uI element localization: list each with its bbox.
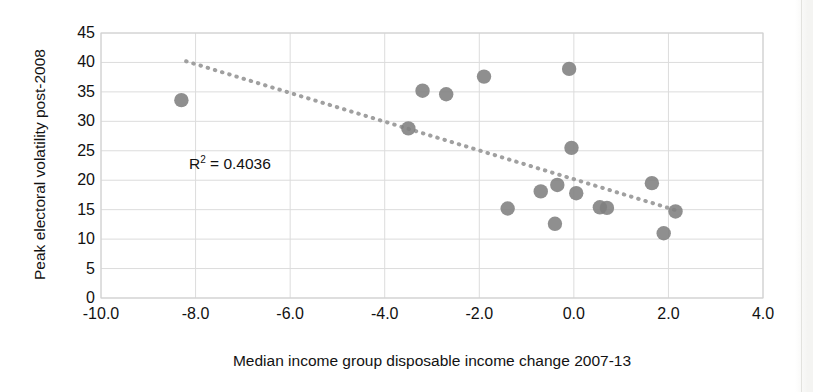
scatter-chart-figure: Peak electoral volatility post-2008 0510… xyxy=(0,0,813,392)
x-axis-title: Median income group disposable income ch… xyxy=(101,352,763,370)
x-axis-tick-label: 2.0 xyxy=(628,305,708,323)
data-point xyxy=(415,84,429,98)
data-point xyxy=(564,141,578,155)
x-axis-tick-label: -2.0 xyxy=(439,305,519,323)
data-point xyxy=(500,201,514,215)
data-point xyxy=(477,69,491,83)
data-point xyxy=(600,201,614,215)
x-axis-tick-label: 0.0 xyxy=(534,305,614,323)
data-point xyxy=(174,93,188,107)
data-point xyxy=(657,226,671,240)
r-squared-text: R2 = 0.4036 xyxy=(189,155,271,172)
x-axis-tick-label: 4.0 xyxy=(723,305,803,323)
r-squared-annotation: R2 = 0.4036 xyxy=(189,154,271,173)
data-point xyxy=(550,178,564,192)
data-point xyxy=(439,87,453,101)
plot-canvas xyxy=(0,0,813,392)
data-point xyxy=(548,217,562,231)
trendline xyxy=(186,61,678,211)
x-axis-tick-label: -8.0 xyxy=(156,305,236,323)
data-point xyxy=(645,176,659,190)
x-axis-tick-label: -6.0 xyxy=(250,305,330,323)
data-point xyxy=(562,62,576,76)
data-point xyxy=(569,186,583,200)
x-axis-tick-label: -4.0 xyxy=(345,305,425,323)
page-edge-rule xyxy=(801,0,802,392)
data-point xyxy=(668,204,682,218)
data-point xyxy=(534,184,548,198)
x-axis-tick-label: -10.0 xyxy=(61,305,141,323)
data-point xyxy=(401,121,415,135)
